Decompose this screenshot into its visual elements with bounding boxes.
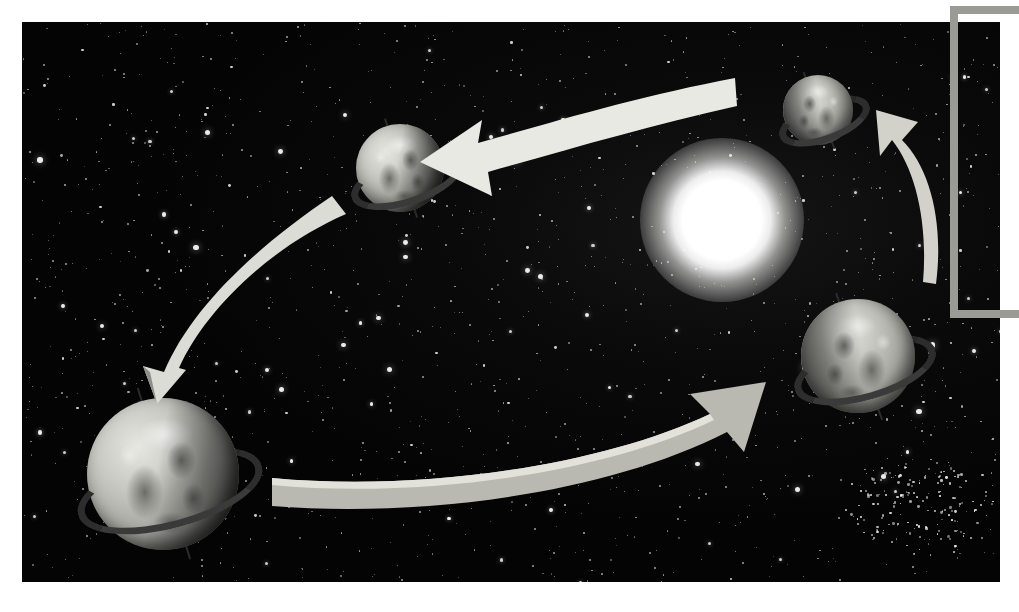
bracket-spine (950, 6, 958, 318)
bracket-bottom-arm (950, 310, 1019, 318)
diagram-canvas (0, 0, 1019, 612)
callout-bracket (950, 6, 1019, 318)
starfield-plate (22, 22, 1000, 582)
bracket-top-arm (950, 6, 1019, 14)
arrow-right (22, 22, 1000, 582)
arrow-body (876, 110, 938, 284)
